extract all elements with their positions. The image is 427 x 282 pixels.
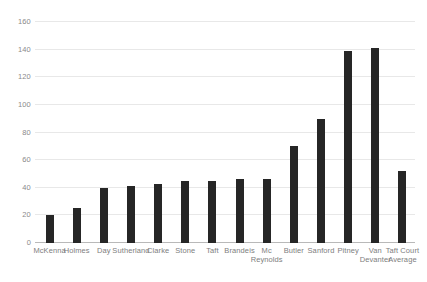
bar [73, 208, 81, 243]
bar [127, 186, 135, 243]
bar [317, 119, 325, 243]
bar-chart: 020406080100120140160 McKennaHolmesDaySu… [0, 0, 427, 282]
bar [371, 48, 379, 243]
y-tick-label: 60 [1, 156, 31, 164]
y-axis: 020406080100120140160 [0, 22, 31, 243]
bar [290, 146, 298, 243]
bar [263, 179, 271, 243]
bar [236, 179, 244, 243]
bar [154, 184, 162, 243]
x-tick-label-line2: Reynolds [239, 255, 295, 264]
bar [181, 181, 189, 243]
bar [398, 171, 406, 243]
y-tick-label: 120 [1, 74, 31, 82]
x-tick-label: Taft CourtAverage [374, 246, 427, 264]
y-tick-label: 80 [1, 129, 31, 137]
y-tick-label: 100 [1, 101, 31, 109]
bar [100, 188, 108, 243]
x-axis: McKennaHolmesDaySutherlandClarkeStoneTaf… [35, 246, 415, 278]
y-tick-label: 160 [1, 18, 31, 26]
bars-layer [35, 22, 415, 243]
bar [344, 51, 352, 243]
y-tick-label: 140 [1, 46, 31, 54]
y-tick-label: 40 [1, 184, 31, 192]
y-tick-label: 20 [1, 212, 31, 220]
x-tick-label-line2: Average [374, 255, 427, 264]
bar [46, 215, 54, 243]
bar [208, 181, 216, 243]
